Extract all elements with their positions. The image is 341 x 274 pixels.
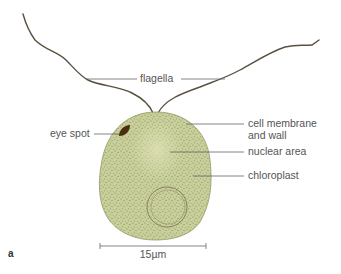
left-flagellum [23,14,153,113]
cell-wall-label: and wall [248,129,287,141]
nuclear-area [131,120,183,180]
flagella-label: flagella [140,72,173,84]
chloroplast-label: chloroplast [248,169,299,181]
cell-membrane-label: cell membrane [248,117,317,129]
panel-label: a [8,248,14,259]
diagram-canvas: flagella cell membrane and wall nuclear … [0,0,341,274]
scale-bar-label: 15µm [140,248,167,260]
eye-spot-label: eye spot [50,127,90,139]
nuclear-area-label: nuclear area [248,145,307,157]
scale-bar: 15µm [100,243,206,260]
right-flagellum [158,40,319,113]
